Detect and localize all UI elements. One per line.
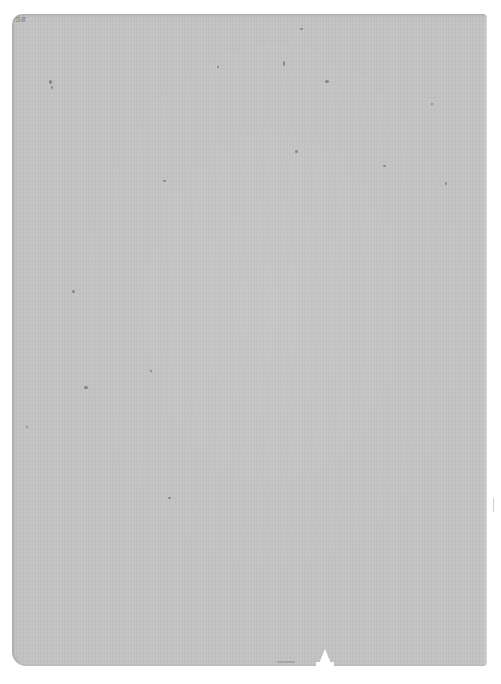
paper-speck [84,386,88,389]
paper-speck [163,180,166,182]
paper-speck [431,103,433,105]
blank-paper-page: 58 [12,14,487,666]
page-edge-highlight [484,14,487,666]
paper-speck [445,182,447,185]
paper-speck [217,66,219,68]
paper-speck [49,80,52,84]
bottom-edge-tear-base [316,662,334,668]
paper-speck [150,370,152,372]
paper-speck [72,290,75,293]
margin-artifact [493,498,494,512]
paper-speck [383,165,386,167]
paper-speck [283,61,285,66]
paper-speck [26,426,28,428]
paper-speck [51,86,53,89]
scan-background: 58 [0,0,501,684]
page-number-mark: 58 [16,16,26,24]
paper-speck [295,150,298,153]
bottom-smudge-mark [277,661,295,663]
paper-speck [325,80,329,83]
paper-speck [300,28,303,30]
paper-speck [168,497,171,499]
